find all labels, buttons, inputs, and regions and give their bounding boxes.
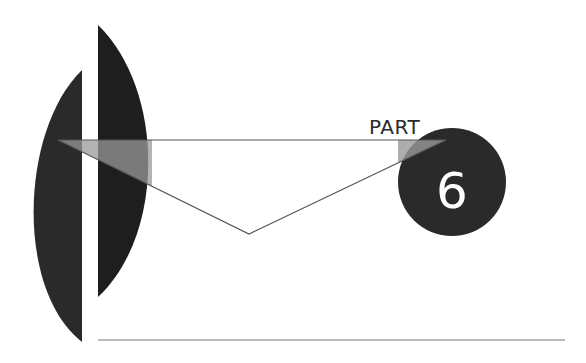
part-number: 6 — [398, 137, 506, 245]
left-half-ellipse — [34, 70, 82, 342]
part-label: PART — [369, 115, 420, 139]
